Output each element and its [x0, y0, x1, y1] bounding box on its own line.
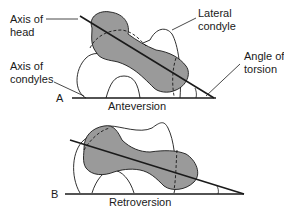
lateral-condyle-line2: condyle: [198, 20, 236, 33]
figure-b-drawing: [65, 123, 244, 194]
axis-of-head-line2: head: [10, 26, 43, 39]
axis-of-head-label: Axis of head: [10, 13, 43, 39]
axis-of-condyles-label: Axis of condyles: [10, 60, 53, 86]
figure-a-caption: Anteversion: [108, 100, 166, 113]
figure-b-caption: Retroversion: [109, 196, 171, 209]
lateral-condyle-line1: Lateral: [198, 7, 236, 20]
angle-of-torsion-line2: torsion: [244, 63, 284, 76]
axis-of-condyles-line1: Axis of: [10, 60, 53, 73]
angle-of-torsion-label: Angle of torsion: [244, 50, 284, 76]
angle-of-torsion-line1: Angle of: [244, 50, 284, 63]
axis-of-condyles-line2: condyles: [10, 73, 53, 86]
figure-b-letter: B: [51, 188, 58, 201]
figure-a-letter: A: [56, 92, 63, 105]
femoral-head-neck-b: [84, 126, 198, 190]
lateral-condyle-label: Lateral condyle: [198, 7, 236, 33]
axis-of-head-line1: Axis of: [10, 13, 43, 26]
